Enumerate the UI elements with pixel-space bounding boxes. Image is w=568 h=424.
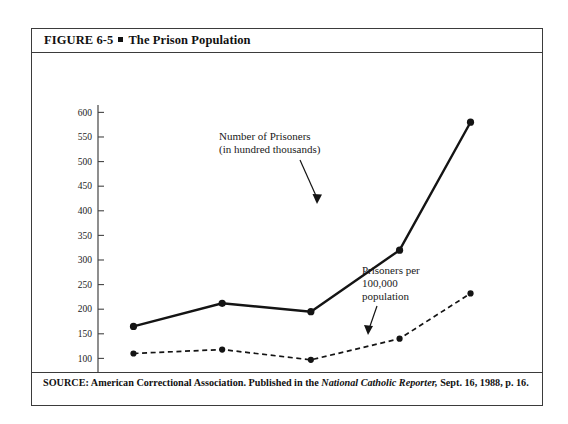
figure-title-text: The Prison Population [128, 33, 250, 47]
source-label: SOURCE: [43, 377, 89, 388]
y-axis-tick-label: 150 [78, 329, 93, 339]
y-axis-tick-label: 350 [78, 231, 93, 241]
annotation-prisoners-count-arrow-line [300, 160, 317, 198]
figure-header: FIGURE 6-5The Prison Population [32, 29, 542, 53]
y-axis-tick-label: 100 [78, 354, 93, 364]
annotation-prisoners-rate: Prisoners per 100,000 population [362, 264, 420, 335]
data-point-marker [307, 308, 314, 315]
data-point-marker [219, 300, 226, 307]
annotation-prisoners-count-line-2: (in hundred thousands) [219, 143, 321, 156]
y-axis-tick-label: 600 [78, 108, 93, 118]
y-axis-tick-label: 500 [78, 157, 93, 167]
data-point-marker [467, 119, 474, 126]
source-note: SOURCE: American Correctional Associatio… [43, 377, 531, 389]
figure-number: FIGURE 6-5 [44, 33, 113, 47]
chart-plot-area: 50100150200250300350400450500550600 1950… [32, 53, 542, 373]
y-axis-tick-label: 400 [78, 206, 93, 216]
prison-population-line-chart: 50100150200250300350400450500550600 1950… [32, 53, 541, 373]
data-point-marker [130, 350, 136, 356]
annotation-prisoners-rate-arrow-line [369, 306, 377, 329]
y-axis-tick-label: 550 [78, 132, 93, 142]
source-text-after: Sept. 16, 1988, p. 16. [438, 377, 529, 388]
y-axis-ticks: 50100150200250300350400450500550600 [78, 108, 104, 373]
annotation-prisoners-count: Number of Prisoners (in hundred thousand… [219, 130, 322, 204]
page-title: FIGURE 6-5The Prison Population [32, 33, 251, 48]
y-axis-tick-label: 450 [78, 181, 93, 191]
figure-container: FIGURE 6-5The Prison Population 50100150… [31, 28, 543, 406]
annotation-prisoners-count-line-1: Number of Prisoners [219, 130, 311, 142]
data-point-marker [396, 336, 402, 342]
data-point-marker [219, 346, 225, 352]
data-point-marker [130, 323, 137, 330]
figure-footer: SOURCE: American Correctional Associatio… [32, 372, 542, 405]
square-bullet-icon [118, 37, 123, 42]
down-right-arrow-icon [313, 194, 323, 204]
data-point-marker [396, 247, 403, 254]
y-axis-tick-label: 300 [78, 255, 93, 265]
source-publication-title: National Catholic Reporter, [321, 377, 437, 388]
source-text-before: American Correctional Association. Publi… [89, 377, 321, 388]
annotation-prisoners-rate-line-1: Prisoners per [362, 264, 420, 276]
data-point-marker [308, 357, 314, 363]
annotation-prisoners-rate-line-3: population [362, 290, 410, 302]
down-arrow-icon [364, 325, 373, 335]
y-axis-tick-label: 200 [78, 304, 93, 314]
series-markers-prisoners-rate [130, 290, 473, 363]
annotation-prisoners-rate-line-2: 100,000 [362, 277, 398, 289]
data-point-marker [467, 290, 473, 296]
y-axis-tick-label: 250 [78, 280, 93, 290]
series-line-prisoners-rate [133, 293, 470, 359]
